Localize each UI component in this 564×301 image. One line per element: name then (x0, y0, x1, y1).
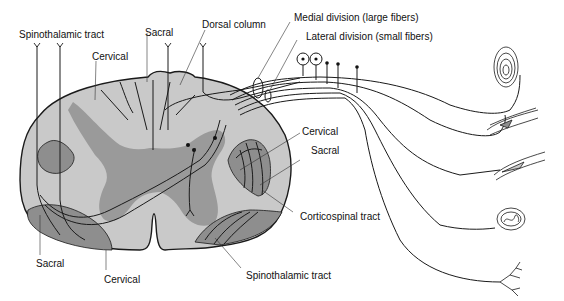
terminal-y-icon (165, 43, 171, 47)
label-sacral-top: Sacral (145, 27, 173, 38)
label-dorsal-column: Dorsal column (202, 19, 266, 30)
receptors (487, 47, 545, 296)
lateral-division-loop (265, 90, 271, 102)
ganglion-cell-large (310, 53, 322, 80)
label-cervical-top: Cervical (92, 51, 128, 62)
spinal-cord-cross-section (20, 46, 300, 250)
terminal-y-icon (34, 43, 40, 47)
meissner-corpuscle-icon (497, 208, 525, 230)
axon-terminals (34, 43, 206, 47)
golgi-tendon-organ-icon (494, 152, 545, 180)
label-spinothalamic-bottom: Spinothalamic tract (246, 270, 331, 281)
muscle-spindle-icon (487, 108, 538, 135)
terminal-y-icon (57, 43, 63, 47)
label-cervical-bottom: Cervical (104, 274, 140, 285)
synapse-dot (186, 143, 190, 147)
label-lateral-division: Lateral division (small fibers) (306, 31, 433, 42)
terminal-y-icon (200, 43, 206, 47)
label-corticospinal: Corticospinal tract (300, 211, 380, 222)
pacinian-corpuscle-icon (494, 47, 518, 87)
ganglion-cell-small (325, 61, 329, 84)
free-nerve-ending-icon (500, 262, 522, 296)
label-cervical-right: Cervical (302, 126, 338, 137)
label-spinothalamic-top: Spinothalamic tract (19, 29, 104, 40)
label-sacral-bottom: Sacral (36, 258, 64, 269)
synapse-dot (213, 136, 217, 140)
spinal-cord-diagram: Spinothalamic tract Sacral Dorsal column… (0, 0, 564, 301)
ganglion-cell-large (297, 53, 309, 76)
root-fiber (230, 75, 520, 113)
ganglion-cell-small (336, 62, 340, 88)
label-sacral-right: Sacral (311, 145, 339, 156)
label-medial-division: Medial division (large fibers) (294, 12, 419, 23)
